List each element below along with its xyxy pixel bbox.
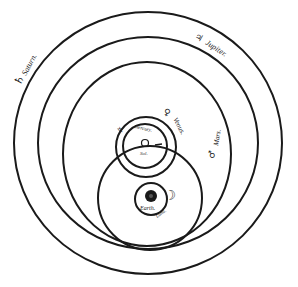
earth-body-center (149, 194, 153, 198)
venus-symbol-icon: ♀ (162, 106, 172, 118)
tychonic-diagram: ♄ Saturn. ♃ Jupiter. ♂ Mars. ♀ Venus. ☿ … (0, 0, 298, 287)
saturn-label: Saturn. (20, 52, 39, 77)
sun-tick-right (155, 144, 162, 145)
jupiter-symbol-icon: ♃ (193, 31, 205, 44)
sun-label: Sol. (140, 151, 148, 156)
mars-label: Mars. (212, 128, 223, 147)
earth-label: Earth. (139, 205, 155, 211)
moon-label: Luna. (154, 208, 167, 219)
jupiter-label: Jupiter. (204, 38, 229, 59)
moon-symbol-icon: ☾ (164, 187, 176, 202)
mars-symbol-icon: ♂ (206, 150, 217, 160)
